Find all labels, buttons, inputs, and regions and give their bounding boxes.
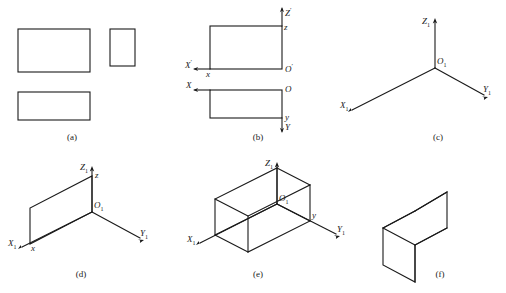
- y-lower-label-b: y: [285, 112, 289, 122]
- box-edge-connect-4-e: [215, 235, 248, 252]
- figure-drawing: [0, 0, 506, 293]
- o1-origin-label-d: O1: [94, 200, 104, 212]
- z1-axis-label-c: Z1: [422, 16, 430, 28]
- top-view-rect-b: [210, 90, 282, 118]
- y1-axis-label-e: Y1: [337, 224, 345, 236]
- x1-axis-label-e: X1: [187, 234, 196, 246]
- z-lower-label-d: z: [95, 170, 99, 180]
- front-view-rect-b: [210, 26, 282, 69]
- z1-axis-label-d: Z1: [80, 162, 88, 174]
- o-prime-origin-label: O′: [285, 62, 293, 74]
- panel-e-box: [196, 162, 340, 252]
- panel-a-views: [18, 29, 135, 120]
- o-origin-label-b: O: [285, 84, 292, 94]
- o1-origin-label-e: O1: [279, 193, 289, 205]
- e-y1-arrowhead: [334, 235, 340, 239]
- solid-edge-top-front-f: [383, 228, 415, 245]
- box-edge-connect-3-e: [215, 199, 248, 216]
- z-prime-axis-label: Z′: [285, 6, 292, 18]
- box-rear-face-e: [215, 168, 277, 235]
- x1-axis-label-d: X1: [8, 238, 17, 250]
- z-lower-label-b: z: [284, 22, 288, 32]
- caption-f: (f): [420, 269, 460, 279]
- y-lower-label-e: y: [312, 210, 316, 220]
- y1-axis-label-d: Y1: [140, 228, 148, 240]
- caption-e: (e): [238, 269, 278, 279]
- figure-container: Z′ z X′ x O′ X O y Y Z1 O1 X1 Y1 Z1 z O1…: [0, 0, 506, 293]
- y1-axis-label-c: Y1: [483, 84, 491, 96]
- x1-axis-line: [352, 68, 435, 110]
- box-edge-connect-2-e: [277, 168, 310, 185]
- x-lower-label-b: x: [206, 69, 210, 79]
- d-y1-axis-line: [92, 212, 140, 238]
- x1-axis-label-c: X1: [340, 100, 349, 112]
- top-view-rect-a: [18, 92, 90, 120]
- o1-origin-label-c: O1: [437, 56, 447, 68]
- caption-d: (d): [61, 269, 101, 279]
- panel-c-axes: [348, 18, 488, 112]
- y-axis-label-b: Y: [285, 122, 290, 132]
- front-view-rect-a: [18, 29, 90, 72]
- x-axis-label-b: X: [186, 80, 192, 90]
- z1-axis-label-e: Z1: [265, 158, 273, 170]
- y1-axis-line: [435, 68, 484, 95]
- solid-edge-top-back-f: [415, 192, 447, 211]
- d-y1-arrowhead: [138, 239, 144, 243]
- caption-c: (c): [418, 132, 458, 142]
- panel-d-face: [18, 166, 144, 249]
- solid-edge-top-right-f: [415, 228, 447, 245]
- front-face-parallelogram-d: [30, 176, 92, 244]
- y1-arrowhead: [482, 96, 488, 100]
- box-edge-connect-1-e: [277, 204, 310, 221]
- x-prime-axis-label: X′: [185, 58, 192, 70]
- caption-a: (a): [52, 132, 92, 142]
- side-view-rect-a: [110, 29, 135, 66]
- solid-edge-top-left-f: [383, 211, 415, 228]
- x-lower-label-d: x: [31, 243, 35, 253]
- caption-b: (b): [238, 132, 278, 142]
